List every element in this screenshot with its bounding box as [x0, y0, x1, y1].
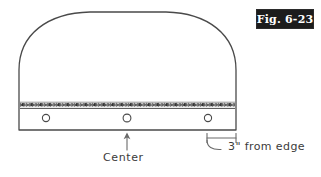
hole-right [204, 114, 211, 121]
hole-left [42, 114, 49, 121]
edge-distance-annotation-label: 3" from edge [228, 141, 305, 152]
center-arrow-icon [124, 133, 131, 150]
panel-outline [19, 12, 236, 130]
center-annotation-label: Center [103, 152, 144, 163]
figure-diagram: Fig. 6-23 Center 3" from edge [0, 0, 321, 177]
figure-number-label: Fig. 6-23 [257, 14, 314, 25]
stitch-band [20, 102, 235, 108]
figure-number-plate: Fig. 6-23 [256, 9, 314, 29]
hole-center [123, 114, 131, 122]
